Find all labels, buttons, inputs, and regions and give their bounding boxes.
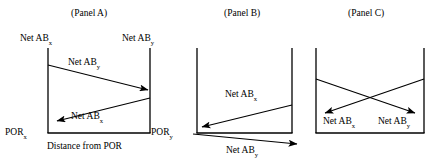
panel-a-series-label-net-ab-y-subscript: y (97, 63, 100, 70)
panel-a-top-left-label-text: Net AB (20, 33, 49, 43)
panel-c-line-net-ab-x (325, 79, 424, 113)
panel-a-origin-left-label-text: POR (5, 127, 23, 137)
figure-three-panel-net-ab: (Panel A) Net ABx Net ABy Net ABy Net AB… (0, 0, 435, 165)
panel-a-series-label-net-ab-y-text: Net AB (68, 57, 97, 67)
panel-b-series-label-net-ab-y-subscript: y (255, 151, 258, 158)
panel-b-series-label-net-ab-y: Net ABy (226, 146, 258, 157)
panel-a-top-right-label: Net ABy (122, 34, 154, 45)
panel-c-series-label-net-ab-y: Net ABy (378, 117, 410, 128)
panel-c-series-label-net-ab-x: Net ABx (323, 117, 355, 128)
panel-b-series-label-net-ab-y-text: Net AB (226, 145, 255, 155)
panel-a-top-left-label-subscript: x (49, 39, 52, 46)
panel-a-origin-right-label-subscript: y (169, 133, 172, 140)
panel-b-line-net-ab-x (202, 105, 292, 127)
panel-a-origin-left-label-subscript: x (23, 133, 26, 140)
panel-a-xaxis-caption: Distance from POR (47, 142, 122, 152)
panel-a-origin-right-label-text: POR (151, 127, 169, 137)
panel-c-series-label-net-ab-y-text: Net AB (378, 116, 407, 126)
panel-a-series-label-net-ab-x-text: Net AB (71, 111, 100, 121)
panel-b-line-net-ab-y (193, 134, 297, 144)
panel-a-top-right-label-subscript: y (151, 39, 154, 46)
panel-c-series-label-net-ab-x-subscript: x (352, 122, 355, 129)
panel-c-line-net-ab-y (316, 79, 415, 113)
panel-b-series-label-net-ab-x: Net ABx (225, 90, 257, 101)
panel-a-origin-left-label: PORx (5, 128, 27, 139)
panel-a-series-label-net-ab-x-subscript: x (100, 117, 103, 124)
panel-a-top-right-label-text: Net AB (122, 33, 151, 43)
panel-a-series-label-net-ab-x: Net ABx (71, 112, 103, 123)
panel-c-series-label-net-ab-y-subscript: y (407, 122, 410, 129)
panel-a-title: (Panel A) (71, 9, 107, 19)
panel-c-title: (Panel C) (348, 9, 384, 19)
panel-a-series-label-net-ab-y: Net ABy (68, 58, 100, 69)
panel-a-top-left-label: Net ABx (20, 34, 52, 45)
panel-b-series-label-net-ab-x-subscript: x (254, 95, 257, 102)
panel-b-title: (Panel B) (224, 9, 260, 19)
panel-a-origin-right-label: PORy (151, 128, 173, 139)
panel-b-series-label-net-ab-x-text: Net AB (225, 89, 254, 99)
panel-c-series-label-net-ab-x-text: Net AB (323, 116, 352, 126)
